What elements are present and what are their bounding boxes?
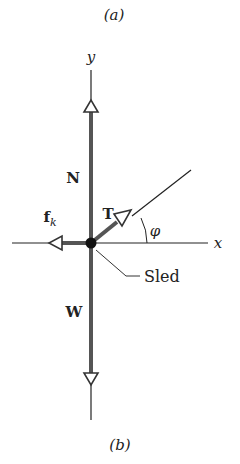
angle-arc: [141, 218, 147, 243]
normal-force-vector: [84, 100, 98, 243]
tension-force-label: T: [102, 205, 114, 223]
arrowhead-down-icon: [84, 373, 98, 385]
y-axis-label: y: [86, 48, 96, 66]
tension-direction-line: [132, 170, 191, 216]
x-axis-label: x: [214, 234, 223, 252]
weight-force-vector: [84, 243, 98, 385]
normal-force-label: N: [66, 169, 80, 187]
free-body-diagram: (a) y x N W fk T φ Sled (b): [0, 0, 240, 464]
arrowhead-left-icon: [49, 236, 62, 250]
panel-label-b: (b): [109, 436, 130, 454]
angle-label: φ: [150, 222, 161, 240]
sled-leader-line: [96, 250, 140, 276]
friction-force-vector: [49, 236, 91, 250]
friction-force-label: fk: [43, 208, 56, 229]
panel-label-a: (a): [104, 6, 125, 24]
arrowhead-up-icon: [84, 100, 98, 112]
sled-dot: [86, 238, 97, 249]
sled-label: Sled: [144, 267, 180, 286]
weight-force-label: W: [65, 303, 84, 321]
